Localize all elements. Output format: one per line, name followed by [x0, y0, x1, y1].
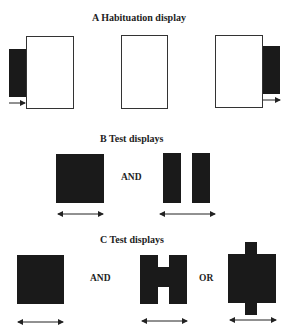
test-c-h-shape — [140, 255, 187, 304]
test-c-cross-shape — [228, 242, 276, 315]
shapes-and-arrows — [0, 0, 289, 332]
section-c-conjunction-or: OR — [199, 273, 213, 283]
